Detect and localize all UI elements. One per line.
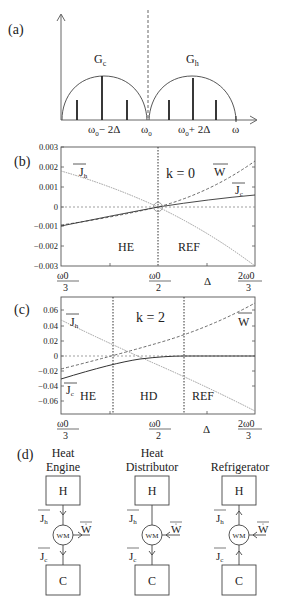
svg-text:Jc: Jc [66, 383, 74, 398]
svg-text:W: W [81, 523, 92, 535]
panel-c-label: (c) [14, 302, 30, 318]
curve-jc [61, 356, 255, 379]
svg-text:ω0: ω0 [149, 418, 161, 429]
jh-label: Jh [73, 164, 88, 180]
panel-d: (d) Heat Engine H WM C Jh Jc W [17, 446, 269, 595]
svg-text:Jc: Jc [216, 550, 223, 564]
region-label-ref: REF [178, 240, 200, 254]
svg-text:Δ: Δ [204, 275, 211, 287]
svg-text:Jh: Jh [129, 512, 137, 526]
svg-text:−0.001: −0.001 [34, 221, 58, 231]
xtick-omega: ω [232, 123, 239, 135]
svg-text:0: 0 [54, 351, 58, 361]
gc-envelope [62, 76, 147, 120]
machine-heat-distributor: Heat Distributor H WM C Jh Jc W [126, 446, 182, 595]
svg-text:ω0: ω0 [57, 270, 69, 281]
x-tick-labels: ω0 3 ω0 2 Δ 2ω0 3 [57, 418, 262, 441]
k-annotation: k = 0 [166, 166, 195, 181]
jc-label: Jc [64, 383, 77, 398]
svg-text:−0.04: −0.04 [38, 381, 58, 391]
jh-label: Jh [66, 314, 79, 330]
svg-text:−0.02: −0.02 [38, 366, 58, 376]
svg-text:0: 0 [54, 202, 58, 212]
gh-label: Gh [186, 52, 199, 68]
svg-text:C: C [148, 574, 156, 588]
svg-text:C: C [59, 574, 67, 588]
svg-text:Jc: Jc [235, 183, 243, 198]
xtick-omega0-plus-2delta: ω0+ 2Δ [178, 123, 210, 138]
svg-text:Δ: Δ [203, 423, 210, 435]
panel-a: (a) Gc Gh ω0− 2Δ ω0 ω0+ 2Δ ω [8, 10, 257, 138]
svg-text:ω0: ω0 [57, 418, 69, 429]
svg-text:Jc: Jc [129, 550, 136, 564]
svg-text:Jh: Jh [79, 165, 88, 180]
svg-text:2ω0: 2ω0 [238, 418, 255, 429]
svg-text:0.002: 0.002 [39, 162, 58, 172]
svg-text:W: W [258, 523, 269, 535]
svg-text:3: 3 [246, 282, 251, 293]
svg-text:Jh: Jh [70, 315, 79, 330]
svg-text:Engine: Engine [46, 460, 80, 474]
svg-text:W: W [238, 315, 250, 329]
svg-text:2ω0: 2ω0 [238, 270, 255, 281]
svg-text:−0.002: −0.002 [34, 241, 58, 251]
region-label-ref: REF [192, 389, 214, 403]
svg-text:3: 3 [63, 282, 68, 293]
panel-c: (c) 0.06 0.04 0.02 0 −0.02 −0.04 −0.06 k… [14, 297, 262, 441]
svg-text:2: 2 [156, 430, 161, 441]
region-label-he: HE [80, 389, 96, 403]
svg-text:H: H [148, 484, 157, 498]
svg-text:WM: WM [57, 532, 71, 540]
panel-b: (b) 0.003 0.002 0.001 0 −0.001 −0.002 −0… [14, 142, 262, 293]
panel-d-label: (d) [17, 447, 34, 463]
svg-text:ω0: ω0 [149, 270, 161, 281]
k-annotation: k = 2 [136, 310, 165, 325]
region-label-hd: HD [140, 389, 158, 403]
svg-text:WM: WM [233, 532, 247, 540]
svg-text:Jh: Jh [40, 512, 48, 526]
machine-refrigerator: Refrigerator H WM C Jh Jc W [211, 460, 270, 595]
svg-text:0.06: 0.06 [43, 305, 58, 315]
svg-text:W: W [171, 523, 182, 535]
x-tick-labels: ω0 3 ω0 2 Δ 2ω0 3 [57, 270, 262, 293]
svg-text:2: 2 [156, 282, 161, 293]
svg-text:C: C [235, 574, 243, 588]
svg-text:H: H [59, 484, 68, 498]
svg-text:W: W [214, 165, 226, 179]
svg-text:0.003: 0.003 [39, 142, 58, 152]
svg-text:0.04: 0.04 [43, 321, 59, 331]
svg-text:−0.003: −0.003 [34, 261, 58, 271]
svg-text:Heat: Heat [141, 446, 164, 460]
svg-text:Jh: Jh [216, 512, 224, 526]
svg-text:3: 3 [63, 430, 68, 441]
gc-label: Gc [94, 52, 107, 68]
svg-text:0.02: 0.02 [43, 336, 58, 346]
svg-text:Distributor: Distributor [126, 460, 179, 474]
w-label: W [238, 313, 252, 329]
svg-text:Refrigerator: Refrigerator [211, 460, 270, 474]
svg-text:WM: WM [146, 532, 160, 540]
xtick-omega0: ω0 [141, 123, 152, 138]
xtick-omega0-minus-2delta: ω0− 2Δ [88, 123, 120, 138]
svg-text:0.001: 0.001 [39, 182, 58, 192]
panel-b-label: (b) [14, 154, 31, 170]
panel-a-label: (a) [8, 22, 24, 38]
w-label: W [213, 164, 228, 179]
machine-heat-engine: Heat Engine H WM C Jh Jc W [38, 446, 92, 595]
curve-jh [61, 171, 255, 266]
region-label-he: HE [118, 240, 134, 254]
y-tick-labels: 0.06 0.04 0.02 0 −0.02 −0.04 −0.06 [38, 305, 58, 406]
figure-canvas: (a) Gc Gh ω0− 2Δ ω0 ω0+ 2Δ ω (b) [0, 0, 288, 612]
svg-text:Jc: Jc [40, 550, 47, 564]
svg-text:−0.06: −0.06 [38, 396, 58, 406]
y-tick-labels: 0.003 0.002 0.001 0 −0.001 −0.002 −0.003 [34, 142, 58, 271]
svg-text:Heat: Heat [52, 446, 75, 460]
svg-text:3: 3 [246, 430, 251, 441]
svg-text:H: H [235, 484, 244, 498]
